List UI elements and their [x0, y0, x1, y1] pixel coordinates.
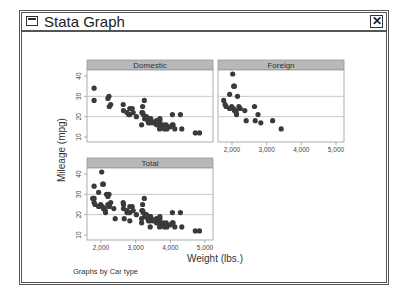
data-point: [279, 126, 284, 131]
data-point: [227, 92, 232, 97]
data-point: [139, 216, 144, 221]
x-tick-label: 5,000: [197, 244, 214, 251]
data-point: [124, 210, 129, 215]
data-point: [142, 98, 147, 103]
data-point: [99, 169, 104, 174]
data-point: [121, 202, 126, 207]
y-tick-label: 30: [75, 92, 82, 100]
data-point: [148, 120, 153, 125]
data-point: [141, 210, 146, 215]
data-point: [140, 104, 145, 109]
y-tick-label: 10: [75, 231, 82, 239]
data-point: [164, 122, 169, 127]
data-point: [142, 196, 147, 201]
data-point: [178, 210, 183, 215]
data-point: [178, 112, 183, 117]
data-point: [130, 204, 135, 209]
data-point: [179, 224, 184, 229]
data-point: [139, 122, 144, 127]
data-point: [255, 112, 260, 117]
data-point: [197, 228, 202, 233]
data-point: [134, 212, 139, 217]
data-point: [235, 94, 240, 99]
scatter-graph: Domestic10203040Foreign2,0003,0004,0005,…: [0, 0, 409, 299]
x-axis-title: Weight (lbs.): [187, 253, 243, 264]
data-point: [92, 86, 97, 91]
data-point: [232, 84, 237, 89]
y-tick-label: 20: [75, 113, 82, 121]
data-point: [244, 118, 249, 123]
data-point: [111, 206, 116, 211]
y-tick-label: 20: [75, 211, 82, 219]
data-point: [170, 220, 175, 225]
data-point: [157, 116, 162, 121]
data-point: [127, 112, 132, 117]
data-point: [164, 220, 169, 225]
data-point: [170, 112, 175, 117]
data-point: [258, 120, 263, 125]
data-point: [238, 106, 243, 111]
y-tick-label: 40: [75, 170, 82, 178]
graph-note: Graphs by Car type: [73, 267, 138, 276]
data-point: [148, 224, 153, 229]
data-point: [103, 208, 108, 213]
y-tick-label: 30: [75, 190, 82, 198]
data-point: [170, 210, 175, 215]
data-point: [140, 202, 145, 207]
data-point: [134, 114, 139, 119]
data-point: [105, 96, 110, 101]
data-point: [104, 192, 109, 197]
data-point: [130, 106, 135, 111]
x-tick-label: 2,000: [224, 146, 241, 153]
data-point: [96, 190, 101, 195]
data-point: [170, 122, 175, 127]
data-point: [197, 130, 202, 135]
x-tick-label: 2,000: [93, 244, 110, 251]
y-axis-title: Mileage (mpg): [56, 118, 67, 182]
data-point: [242, 108, 247, 113]
x-tick-label: 3,000: [128, 244, 145, 251]
panel-title: Total: [142, 159, 159, 168]
panel-title: Domestic: [133, 61, 166, 70]
data-point: [148, 218, 153, 223]
data-point: [107, 104, 112, 109]
data-point: [127, 218, 132, 223]
y-tick-label: 10: [75, 133, 82, 141]
panel-title: Foreign: [267, 61, 294, 70]
y-tick-label: 40: [75, 72, 82, 80]
data-point: [92, 98, 97, 103]
data-point: [122, 216, 127, 221]
data-point: [179, 126, 184, 131]
data-point: [157, 214, 162, 219]
data-point: [270, 118, 275, 123]
data-point: [157, 224, 162, 229]
x-tick-label: 5,000: [328, 146, 345, 153]
x-tick-label: 4,000: [162, 244, 179, 251]
x-tick-label: 4,000: [293, 146, 310, 153]
data-point: [157, 126, 162, 131]
data-point: [141, 112, 146, 117]
data-point: [113, 216, 118, 221]
data-point: [107, 204, 112, 209]
data-point: [92, 184, 97, 189]
x-tick-label: 3,000: [259, 146, 276, 153]
data-point: [101, 182, 106, 187]
data-point: [234, 110, 239, 115]
data-point: [253, 118, 258, 123]
data-point: [230, 71, 235, 76]
data-point: [121, 102, 126, 107]
data-point: [121, 108, 126, 113]
data-point: [252, 104, 257, 109]
